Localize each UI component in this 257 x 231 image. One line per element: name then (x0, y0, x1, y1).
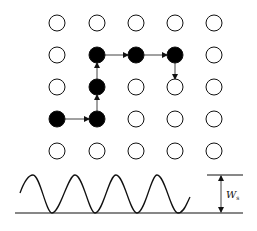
empty-site (128, 15, 144, 31)
path-arrows (65, 55, 175, 119)
empty-site (167, 15, 183, 31)
empty-site (206, 111, 222, 127)
empty-site (206, 143, 222, 159)
empty-site (49, 15, 65, 31)
empty-site (49, 47, 65, 63)
empty-site (206, 47, 222, 63)
empty-site (128, 143, 144, 159)
empty-site (49, 79, 65, 95)
empty-site (167, 111, 183, 127)
sine-wave (20, 175, 190, 213)
lattice-grid (49, 15, 222, 159)
diagram-canvas: Ws (0, 0, 257, 231)
empty-site (206, 15, 222, 31)
occupied-site (89, 79, 105, 95)
empty-site (128, 79, 144, 95)
occupied-site (128, 47, 144, 63)
empty-site (206, 79, 222, 95)
empty-site (167, 143, 183, 159)
empty-site (49, 143, 65, 159)
occupied-site (89, 111, 105, 127)
occupied-site (89, 47, 105, 63)
ws-label: Ws (226, 189, 239, 201)
empty-site (89, 15, 105, 31)
wave-group: Ws (15, 175, 243, 213)
occupied-site (167, 47, 183, 63)
occupied-site (49, 111, 65, 127)
empty-site (128, 111, 144, 127)
empty-site (167, 79, 183, 95)
empty-site (89, 143, 105, 159)
